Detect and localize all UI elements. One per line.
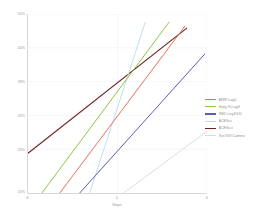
y-tick-label: 26%: [3, 148, 25, 152]
series-line-red-log3g10: [80, 54, 205, 193]
series-line-acescc: [90, 22, 146, 193]
y-tick-label: 38%: [3, 80, 25, 84]
legend-item-label: Sony S-Log3: [219, 105, 240, 109]
legend-item[interactable]: ACEScct: [205, 125, 273, 132]
y-tick-label: 50%: [3, 12, 25, 16]
plot-area: [27, 14, 207, 194]
x-axis-title: Stops: [27, 203, 207, 208]
legend-swatch-icon: [205, 99, 216, 100]
legend-swatch-icon: [205, 128, 216, 129]
legend-swatch-icon: [205, 106, 216, 107]
chart-container: 50% 44% 38% 32% 26% 20%: [0, 0, 274, 214]
series-line-sony-slog3: [42, 22, 169, 193]
legend-item-label: ARRI LogC: [219, 98, 238, 102]
series-line-acescct: [28, 28, 187, 153]
legend-item[interactable]: ACEScc: [205, 118, 273, 125]
series-line-arri-logc: [60, 26, 185, 193]
legend-item[interactable]: Rec709 Camera: [205, 132, 273, 139]
legend-swatch-icon: [205, 121, 216, 122]
legend-item[interactable]: Sony S-Log3: [205, 103, 273, 110]
x-tick-label: -6: [19, 196, 35, 200]
legend-swatch-icon: [205, 135, 216, 136]
data-series-layer: [28, 14, 207, 193]
legend-item[interactable]: ARRI LogC: [205, 96, 273, 103]
legend-item-label: Rec709 Camera: [219, 134, 246, 138]
chart-legend: ARRI LogC Sony S-Log3 RED Log3G10 ACEScc…: [205, 96, 273, 139]
y-tick-label: 32%: [3, 114, 25, 118]
legend-swatch-icon: [205, 113, 216, 114]
legend-item[interactable]: RED Log3G10: [205, 110, 273, 117]
y-tick-label: 20%: [3, 190, 25, 194]
series-line-rec709-camera: [123, 131, 207, 193]
legend-item-label: ACEScc: [219, 119, 233, 123]
legend-item-label: RED Log3G10: [219, 112, 243, 116]
y-tick-label: 44%: [3, 46, 25, 50]
x-tick-label: 6: [199, 196, 215, 200]
x-tick-label: 0: [109, 196, 125, 200]
legend-item-label: ACEScct: [219, 126, 234, 130]
